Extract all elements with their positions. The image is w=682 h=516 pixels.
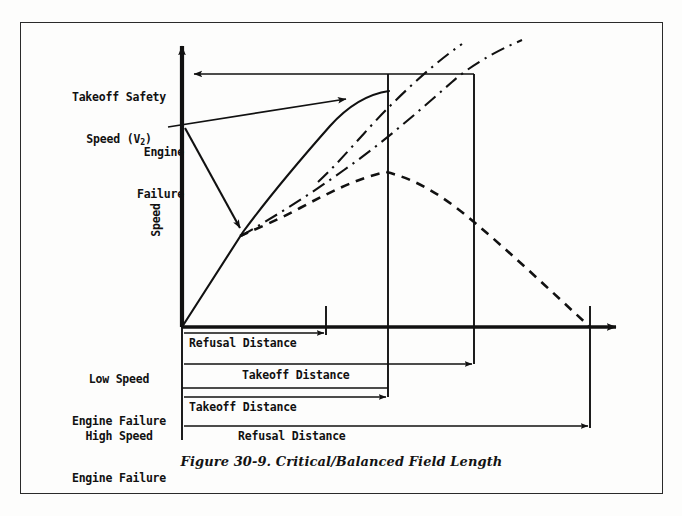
label-engine-failure: Engine Failure <box>84 117 184 229</box>
label-engine-failure-line1: Engine <box>84 145 184 159</box>
continued-acceleration-dashdot-upper <box>318 44 462 182</box>
label-low-speed-engine-failure-line1: Low Speed <box>54 372 184 386</box>
label-engine-failure-line2: Failure <box>84 187 184 201</box>
continued-acceleration-dashdot-lower <box>241 40 522 236</box>
y-axis-label-speed: Speed <box>149 190 163 250</box>
label-high-speed-engine-failure-line1: High Speed <box>54 429 184 443</box>
label-refusal-distance-high-speed: Refusal Distance <box>238 430 346 443</box>
callout-engine-failure-to-point <box>185 128 240 228</box>
figure-caption: Figure 30-9. Critical/Balanced Field Len… <box>20 454 663 469</box>
deceleration-curve-dashed <box>240 172 590 327</box>
label-refusal-distance-low-speed: Refusal Distance <box>189 337 297 350</box>
label-takeoff-distance-low-speed: Takeoff Distance <box>242 369 350 382</box>
figure-page: Takeoff Safety Speed (V2) Engine Failure… <box>0 0 682 516</box>
callout-engine-failure-to-curve <box>168 99 346 127</box>
label-takeoff-safety-speed-line1: Takeoff Safety <box>54 90 184 104</box>
label-takeoff-distance-high-speed: Takeoff Distance <box>189 401 297 414</box>
acceleration-curve-solid <box>182 91 389 327</box>
label-high-speed-engine-failure-line2: Engine Failure <box>54 471 184 485</box>
